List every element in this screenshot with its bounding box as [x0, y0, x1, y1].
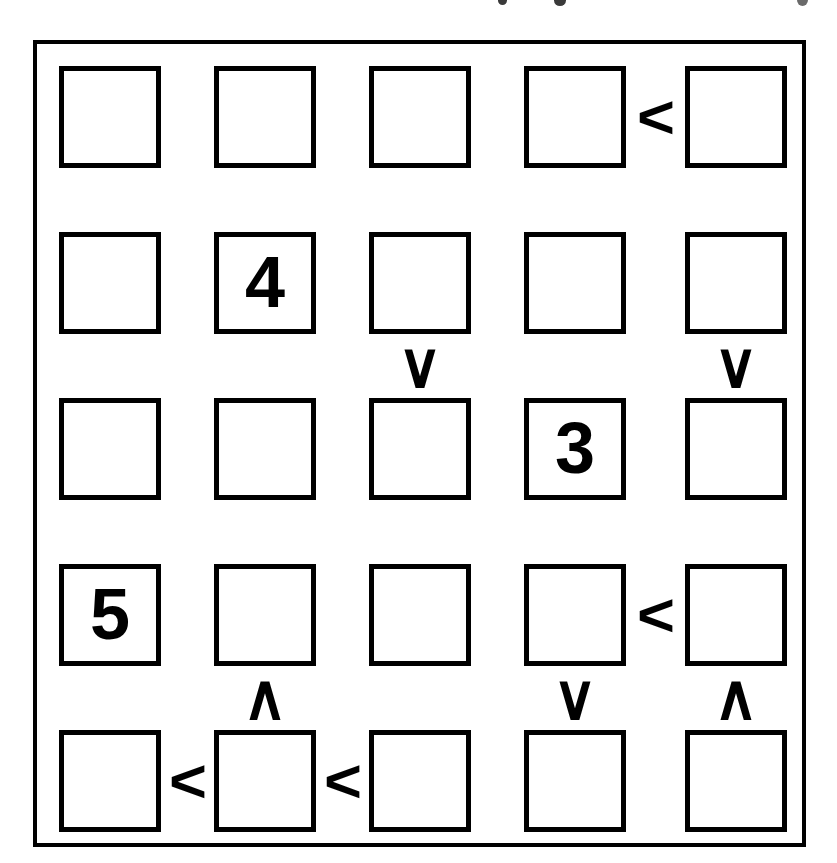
grid-cell-r4c3[interactable] — [369, 564, 471, 666]
grid-cell-r1c2[interactable] — [214, 66, 316, 168]
grid-cell-r3c4[interactable]: 3 — [524, 398, 626, 500]
grid-cell-r1c3[interactable] — [369, 66, 471, 168]
h-constraint-less-than-r1-c4c5: < — [626, 89, 685, 145]
grid-cell-r4c5[interactable] — [685, 564, 787, 666]
grid-cell-r3c5[interactable] — [685, 398, 787, 500]
grid-cell-r1c1[interactable] — [59, 66, 161, 168]
grid-cell-r2c3[interactable] — [369, 232, 471, 334]
grid-cell-r3c1[interactable] — [59, 398, 161, 500]
grid-cell-r5c1[interactable] — [59, 730, 161, 832]
cell-value: 4 — [245, 246, 285, 318]
scan-edge-artifacts — [0, 0, 837, 8]
v-constraint-less-than-up-c2-r4r5: ∧ — [235, 667, 295, 730]
v-constraint-greater-than-down-c3-r2r3: ∨ — [390, 335, 450, 398]
grid-cell-r2c4[interactable] — [524, 232, 626, 334]
grid-cell-r5c2[interactable] — [214, 730, 316, 832]
grid-cell-r2c1[interactable] — [59, 232, 161, 334]
cell-value: 5 — [90, 578, 130, 650]
grid-cell-r5c4[interactable] — [524, 730, 626, 832]
grid-cell-r2c5[interactable] — [685, 232, 787, 334]
h-constraint-less-than-r4-c4c5: < — [626, 587, 685, 643]
v-constraint-greater-than-down-c5-r2r3: ∨ — [706, 335, 766, 398]
grid-cell-r5c5[interactable] — [685, 730, 787, 832]
grid-cell-r2c2[interactable]: 4 — [214, 232, 316, 334]
cell-value: 3 — [555, 412, 595, 484]
grid-cell-r1c5[interactable] — [685, 66, 787, 168]
puzzle-frame: 435<<<<∨∨∧∨∧ — [33, 40, 806, 847]
h-constraint-less-than-r5-c2c3: < — [313, 753, 372, 809]
grid-cell-r1c4[interactable] — [524, 66, 626, 168]
grid-cell-r4c4[interactable] — [524, 564, 626, 666]
grid-cell-r3c2[interactable] — [214, 398, 316, 500]
v-constraint-less-than-up-c5-r4r5: ∧ — [706, 667, 766, 730]
grid-cell-r4c2[interactable] — [214, 564, 316, 666]
v-constraint-greater-than-down-c4-r4r5: ∨ — [545, 667, 605, 730]
h-constraint-less-than-r5-c1c2: < — [158, 753, 217, 809]
grid-cell-r5c3[interactable] — [369, 730, 471, 832]
grid-cell-r3c3[interactable] — [369, 398, 471, 500]
grid-cell-r4c1[interactable]: 5 — [59, 564, 161, 666]
futoshiki-grid: 435<<<<∨∨∧∨∧ — [37, 44, 802, 843]
